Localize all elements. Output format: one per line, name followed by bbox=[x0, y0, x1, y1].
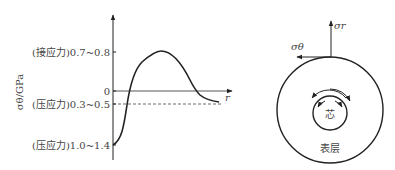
stress-curve bbox=[113, 51, 219, 145]
stress-graph: (接应力)0.7~0.8 0 (压应力)0.3~0.5 (压应力)1.0~1.4… bbox=[14, 15, 232, 160]
inner-arc-arrow-left bbox=[318, 101, 325, 107]
tick-label-tensile: (接应力)0.7~0.8 bbox=[32, 46, 110, 58]
y-axis-label: σθ/GPa bbox=[14, 74, 25, 110]
tick-label-compressive-2: (压应力)1.0~1.4 bbox=[32, 139, 110, 151]
core-label: 芯 bbox=[325, 108, 335, 120]
surface-label: 表层 bbox=[320, 142, 340, 154]
x-axis-label: r bbox=[225, 92, 231, 103]
inner-arc-arrow-right bbox=[335, 101, 342, 107]
sigma-r-label: σr bbox=[334, 20, 347, 31]
cross-section: σr σθ 芯 表层 bbox=[277, 20, 383, 163]
tick-label-zero: 0 bbox=[104, 86, 110, 97]
sigma-theta-label: σθ bbox=[291, 41, 304, 52]
stress-diagram: (接应力)0.7~0.8 0 (压应力)0.3~0.5 (压应力)1.0~1.4… bbox=[0, 0, 395, 170]
tick-label-compressive-1: (压应力)0.3~0.5 bbox=[32, 98, 110, 110]
